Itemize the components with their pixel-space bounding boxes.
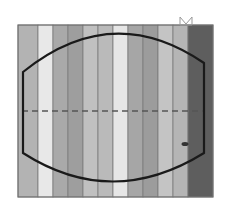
bowtie-marker-icon [180,17,192,25]
stripe-12 [188,25,213,197]
dot-marker [182,142,189,146]
stripe-lens-diagram [0,0,228,211]
